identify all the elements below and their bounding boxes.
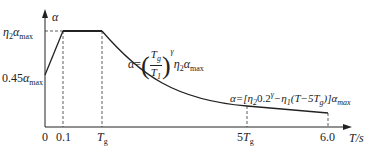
max-subscript: max (19, 32, 33, 41)
max-subscript: max (190, 64, 204, 73)
peak-value-label: η2αmax (3, 26, 33, 41)
coefficient-text: 0.45 (2, 71, 23, 85)
right-paren: ) (162, 51, 171, 80)
period-ratio-fraction: TgT1 (150, 48, 162, 83)
x-tick-6.0: 6.0 (320, 131, 335, 143)
start-value-label: 0.45αmax (2, 72, 43, 87)
linear-segment-formula: α=[η20.2γ−η1(T−5Tg)]αmax (230, 91, 351, 107)
x-tick-0.1: 0.1 (56, 131, 71, 143)
rising-segment (45, 31, 63, 75)
fraction-denominator: T1 (150, 66, 162, 83)
gamma-exponent: γ (171, 47, 174, 56)
left-paren: ( (141, 51, 150, 80)
x-tick-tg: Tg (97, 131, 108, 146)
x-tick-5tg: 5Tg (237, 131, 254, 146)
y-axis-label: α (52, 11, 58, 23)
max-subscript: max (29, 78, 43, 87)
y-axis-arrow-icon (42, 9, 48, 18)
curved-segment-formula: α=(TgT1)γη2αmax (128, 48, 204, 83)
x-axis-label: T/s (349, 132, 364, 144)
x-axis-arrow-icon (343, 124, 352, 130)
fraction-numerator: Tg (150, 48, 162, 66)
x-tick-0: 0 (42, 131, 48, 143)
linear-descent-segment (247, 106, 328, 113)
